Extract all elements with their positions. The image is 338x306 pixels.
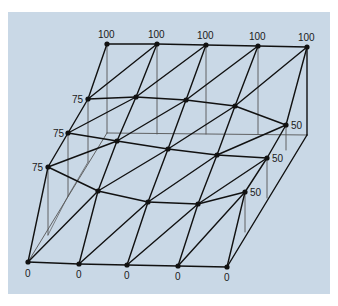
mesh-node: [183, 97, 188, 102]
mesh-edges: [28, 44, 307, 267]
mesh-diagonal-edge: [168, 106, 235, 149]
mesh-node: [175, 263, 180, 268]
mesh-node: [145, 199, 150, 204]
mesh-column-edge: [79, 191, 98, 264]
node-label-bottom-1: 0: [25, 268, 31, 279]
mesh-row-edge: [98, 191, 148, 202]
node-label-right-3: 50: [250, 187, 262, 198]
node-label-right-2: 50: [272, 153, 284, 164]
mesh-column-edge: [117, 97, 136, 141]
mesh-node: [255, 43, 260, 48]
node-label-bottom-4: 0: [175, 271, 181, 282]
mesh-diagonal-edge: [28, 191, 98, 262]
mesh-node: [264, 155, 269, 160]
mesh-node: [203, 42, 208, 47]
node-label-bottom-3: 0: [124, 270, 130, 281]
node-label-top-5: 100: [298, 32, 315, 43]
node-label-bottom-2: 0: [76, 269, 82, 280]
node-label-top-1: 100: [98, 29, 115, 40]
mesh-row-edge: [79, 264, 127, 265]
mesh-column-edge: [227, 192, 245, 267]
node-label-left-1: 75: [72, 94, 84, 105]
mesh-column-edge: [286, 47, 307, 125]
mesh-row-edge: [198, 192, 245, 204]
mesh-row-edge: [148, 202, 198, 204]
node-label-right-1: 50: [291, 120, 303, 131]
mesh-node: [133, 94, 138, 99]
mesh-column-edge: [198, 155, 217, 204]
box-front-right-edge: [227, 135, 307, 267]
node-label-top-3: 100: [197, 30, 214, 41]
mesh-diagram: 100 100 100 100 100 75 75 75 50 50 50 0 …: [0, 0, 338, 306]
mesh-row-edge: [68, 133, 117, 141]
mesh-node: [95, 188, 100, 193]
mesh-node: [224, 264, 229, 269]
mesh-column-edge: [148, 149, 168, 202]
mesh-node: [154, 41, 159, 46]
mesh-diagonal-edge: [148, 155, 217, 202]
mesh-node: [104, 41, 109, 46]
mesh-diagonal-edge: [217, 125, 286, 155]
mesh-row-edge: [168, 149, 217, 155]
mesh-node: [283, 122, 288, 127]
mesh-row-edge: [217, 155, 267, 158]
mesh-row-edge: [186, 100, 235, 106]
mesh-node: [114, 138, 119, 143]
mesh-node: [85, 96, 90, 101]
mesh-row-edge: [258, 46, 307, 47]
floor-projection-line: [68, 162, 88, 196]
mesh-row-edge: [157, 44, 206, 45]
mesh-row-edge: [28, 262, 79, 264]
mesh-row-edge: [206, 45, 258, 46]
mesh-row-edge: [117, 141, 168, 149]
mesh-node: [195, 201, 200, 206]
node-label-top-4: 100: [249, 31, 266, 42]
mesh-node: [242, 189, 247, 194]
mesh-diagonal-edge: [98, 149, 168, 191]
mesh-node: [65, 130, 70, 135]
floor-projection-line: [48, 196, 68, 235]
node-label-left-3: 75: [32, 162, 44, 173]
mesh-node: [76, 261, 81, 266]
node-labels: 100 100 100 100 100 75 75 75 50 50 50 0 …: [25, 29, 315, 283]
node-label-bottom-5: 0: [224, 272, 230, 283]
mesh-node: [232, 103, 237, 108]
mesh-row-edge: [136, 97, 186, 100]
mesh-column-edge: [168, 100, 186, 149]
back-floor-line: [107, 133, 307, 135]
mesh-row-edge: [178, 266, 227, 267]
mesh-node: [124, 262, 129, 267]
mesh-node: [45, 164, 50, 169]
mesh-diagonal-edge: [48, 141, 117, 167]
mesh-node: [214, 152, 219, 157]
mesh-node: [25, 259, 30, 264]
mesh-column-edge: [98, 141, 117, 191]
node-label-left-2: 75: [53, 128, 65, 139]
mesh-row-edge: [127, 265, 178, 266]
mesh-column-edge: [28, 167, 48, 262]
node-label-top-2: 100: [148, 29, 165, 40]
mesh-row-edge: [235, 106, 286, 125]
mesh-node: [304, 44, 309, 49]
mesh-diagonal-edge: [117, 100, 186, 141]
mesh-row-edge: [88, 97, 136, 99]
mesh-node: [165, 146, 170, 151]
